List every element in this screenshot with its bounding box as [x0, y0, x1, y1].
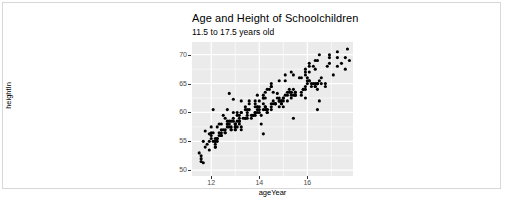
data-point	[220, 128, 223, 131]
data-point	[254, 102, 257, 105]
data-point	[214, 140, 217, 143]
data-point	[236, 120, 239, 123]
data-point	[254, 111, 257, 114]
data-point	[226, 108, 229, 111]
data-point	[310, 85, 313, 88]
data-point	[290, 96, 293, 99]
data-point	[290, 70, 293, 73]
data-point	[230, 128, 233, 131]
data-point	[312, 65, 315, 68]
data-point	[274, 102, 277, 105]
data-point	[270, 82, 273, 85]
data-point	[336, 65, 339, 68]
data-point	[220, 122, 223, 125]
data-point	[260, 114, 263, 117]
chart-title: Age and Height of Schoolchildren	[192, 12, 358, 24]
data-point	[336, 56, 339, 59]
data-point	[248, 99, 251, 102]
data-point	[234, 125, 237, 128]
data-point	[254, 99, 257, 102]
y-axis-tick-mark	[188, 112, 191, 113]
data-point	[250, 117, 253, 120]
data-point	[316, 82, 319, 85]
data-point	[286, 91, 289, 94]
data-point	[240, 111, 243, 114]
data-point	[270, 105, 273, 108]
data-point	[340, 62, 343, 65]
data-point	[198, 151, 201, 154]
data-point	[200, 160, 203, 163]
data-point	[224, 131, 227, 134]
chart-subtitle: 11.5 to 17.5 years old	[192, 27, 274, 37]
data-point	[304, 73, 307, 76]
data-point	[304, 68, 307, 71]
data-point	[278, 105, 281, 108]
data-point	[234, 122, 237, 125]
data-point	[284, 73, 287, 76]
data-point	[282, 96, 285, 99]
data-point	[328, 62, 331, 65]
data-point	[232, 117, 235, 120]
data-point	[318, 99, 321, 102]
document-canvas: Age and Height of Schoolchildren 11.5 to…	[2, 2, 501, 189]
data-point	[248, 108, 251, 111]
data-point	[204, 146, 207, 149]
data-point	[264, 105, 267, 108]
data-point	[290, 91, 293, 94]
data-point	[208, 148, 211, 151]
data-point	[320, 82, 323, 85]
y-axis-tick-mark	[188, 84, 191, 85]
data-point	[210, 137, 213, 140]
data-point	[298, 76, 301, 79]
data-point	[262, 132, 265, 135]
data-point	[234, 128, 237, 131]
data-point	[262, 94, 265, 97]
data-point	[280, 102, 283, 105]
data-point	[224, 117, 227, 120]
x-axis-title: ageYear	[192, 188, 353, 197]
data-point	[282, 105, 285, 108]
data-point	[344, 68, 347, 71]
data-point	[268, 88, 271, 91]
data-point	[222, 114, 225, 117]
data-point	[236, 114, 239, 117]
data-point	[326, 65, 329, 68]
data-point	[210, 131, 213, 134]
data-point	[246, 117, 249, 120]
data-point	[248, 102, 251, 105]
plot-canvas	[192, 42, 353, 176]
data-point	[218, 134, 221, 137]
data-point	[332, 73, 335, 76]
x-axis-tick-label: 12	[201, 179, 221, 187]
data-point	[348, 59, 351, 62]
data-point	[238, 122, 241, 125]
data-point	[224, 128, 227, 131]
y-axis-tick-labels: 5055606570	[171, 42, 187, 176]
data-point	[232, 98, 235, 101]
data-point	[256, 94, 259, 97]
data-point	[308, 62, 311, 65]
data-point	[276, 92, 279, 95]
data-point	[218, 131, 221, 134]
data-point	[310, 82, 313, 85]
data-point	[318, 79, 321, 82]
data-point	[292, 88, 295, 91]
y-axis-title: heightIn	[4, 66, 13, 126]
plot-panel	[192, 42, 353, 176]
data-point	[200, 157, 203, 160]
data-point	[292, 117, 295, 120]
data-point	[240, 125, 243, 128]
data-point	[278, 79, 281, 82]
data-point	[288, 88, 291, 91]
data-point	[262, 96, 265, 99]
data-point	[270, 108, 273, 111]
x-axis-tick-label: 14	[249, 179, 269, 187]
y-axis-tick-label: 60	[171, 108, 187, 115]
data-point	[258, 111, 261, 114]
data-point	[276, 96, 279, 99]
data-point	[284, 79, 287, 82]
data-point	[212, 108, 215, 111]
data-point	[284, 94, 287, 97]
data-point	[286, 99, 289, 102]
data-point	[258, 99, 261, 102]
